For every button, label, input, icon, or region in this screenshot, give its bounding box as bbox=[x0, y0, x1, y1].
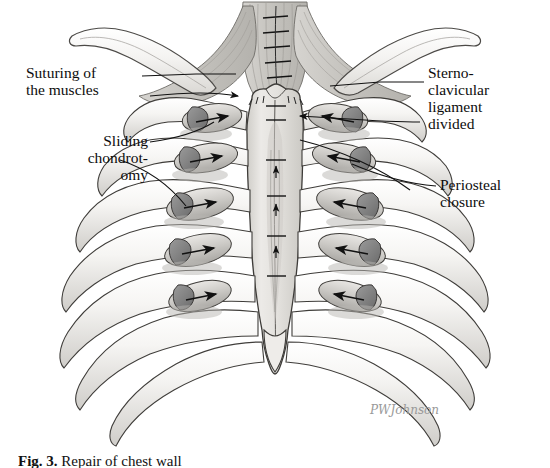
figure-caption: Fig. 3. Repair of chest wall bbox=[18, 452, 448, 468]
artist-signature: PWJohnson bbox=[369, 403, 439, 417]
figure-caption-text: Repair of chest wall bbox=[61, 453, 181, 468]
label-sternoclavicular-ligament-divided: Sterno- clavicular ligament divided bbox=[428, 64, 489, 132]
label-periosteal-closure: Periosteal closure bbox=[440, 176, 501, 210]
label-suturing-of-the-muscles: Suturing of the muscles bbox=[26, 64, 99, 98]
label-sliding-chondrotomy: Sliding chondrot- omy bbox=[40, 132, 148, 183]
figure-number: Fig. 3. bbox=[18, 453, 58, 468]
